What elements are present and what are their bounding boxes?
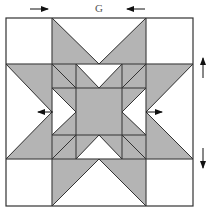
shaded-patch: [76, 88, 122, 135]
shaded-patches: [6, 18, 193, 206]
quilt-block-diagram: [0, 0, 211, 215]
dimension-label-g: G: [95, 2, 103, 14]
